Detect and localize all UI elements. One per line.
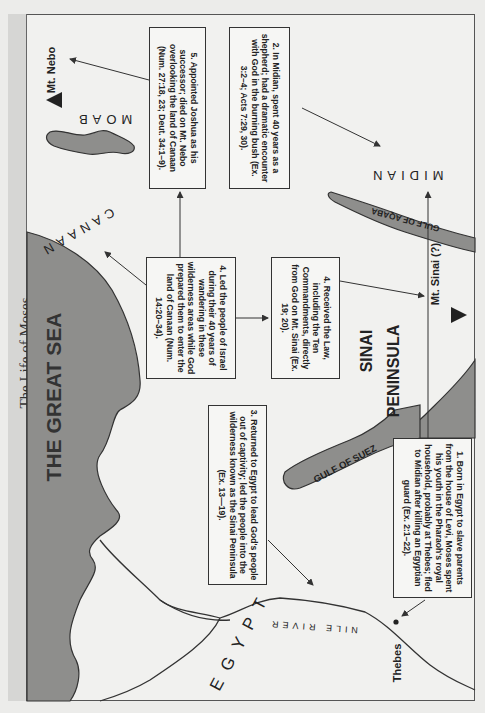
event-text-4-law: 4. Received the Law, including the Ten C… bbox=[279, 262, 332, 374]
event-text-4-wandering: 4. Led the people of Israel during their… bbox=[154, 261, 228, 375]
event-box-4-law: 4. Received the Law, including the Ten C… bbox=[271, 257, 340, 379]
moab-label: MOAB bbox=[74, 112, 132, 127]
event-box-1: 1. Born in Egypt to slave parents from t… bbox=[393, 438, 472, 598]
great-sea-label: THE GREAT SEA bbox=[42, 313, 66, 482]
mt-nebo-triangle bbox=[46, 92, 62, 108]
event-box-2: 2. In Midian, spent 40 years as a shephe… bbox=[229, 27, 290, 189]
event-text-5: 5. Appointed Joshua as his successor; di… bbox=[156, 32, 198, 184]
thebes-label: Thebes bbox=[391, 644, 403, 683]
sinai-label: SINAI bbox=[358, 330, 376, 373]
mt-nebo-label: Mt. Nebo bbox=[45, 47, 57, 93]
event-box-3: 3. Returned to Egypt to lead God's peopl… bbox=[208, 405, 267, 585]
mt-sinai-label: Mt. Sinai (?) bbox=[429, 243, 441, 305]
event-box-4-wandering: 4. Led the people of Israel during their… bbox=[146, 257, 236, 379]
event-text-2: 2. In Midian, spent 40 years as a shephe… bbox=[238, 32, 280, 184]
moab-shape bbox=[47, 131, 135, 155]
event-text-1: 1. Born in Egypt to slave parents from t… bbox=[401, 443, 465, 593]
peninsula-label: PENINSULA bbox=[385, 325, 403, 417]
event-text-3: 3. Returned to Egypt to lead God's peopl… bbox=[216, 409, 258, 581]
event-box-5: 5. Appointed Joshua as his successor; di… bbox=[149, 27, 206, 189]
midian-label: MIDIAN bbox=[368, 168, 444, 183]
mt-sinai-triangle bbox=[451, 307, 467, 323]
thebes-dot bbox=[393, 619, 398, 624]
